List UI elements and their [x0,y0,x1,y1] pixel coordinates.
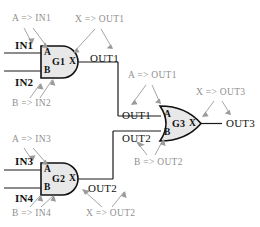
annotation-label-a-out1: A => OUT1 [128,71,177,81]
annotation-arrow-b-in4 [30,195,56,207]
annotation-arrow-a-out1 [131,85,161,105]
annotation-label-x-out2: X => OUT2 [86,209,135,219]
gate-g2-name-label: G2 [52,174,65,184]
annotation-label-x-out1: X => OUT1 [75,15,124,25]
gate-g3-pin-b-label: B [164,128,171,138]
annotation-label-a-in1: A => IN1 [12,14,51,24]
annotation-arrow-x-out1 [73,29,113,53]
signal-label-in2: IN2 [15,77,33,88]
gate-g1-name-label: G1 [52,57,65,67]
signal-label-in4: IN4 [15,193,33,204]
gate-g1-pin-b-label: B [44,66,51,76]
signal-label-in3: IN3 [15,156,33,167]
signal-label-out1-top: OUT1 [90,53,119,64]
annotation-label-x-out3: X => OUT3 [196,88,245,98]
gate-g3-name-label: G3 [172,119,185,129]
annotation-label-b-in4: B => IN4 [12,209,51,219]
logic-gate-diagram: A => IN1 X => OUT1 B => IN2 A => OUT1 X … [0,0,260,227]
annotation-arrow-x-out3 [202,101,231,117]
gate-g2-pin-b-label: B [44,183,51,193]
gate-g2-pin-a-label: A [44,165,51,175]
signal-label-out2-bottom: OUT2 [88,183,117,194]
gate-g3-pin-a-label: A [164,110,171,120]
gate-g2-pin-x-label: X [69,174,76,184]
annotation-label-b-out2: B => OUT2 [134,158,183,168]
annotation-label-a-in3: A => IN3 [12,135,51,145]
gate-g1-pin-a-label: A [44,48,51,58]
annotation-label-b-in2: B => IN2 [12,99,51,109]
signal-label-in1: IN1 [15,40,33,51]
gate-g1-pin-x-label: X [69,57,76,67]
annotation-arrow-b-in2 [30,79,55,98]
signal-label-out3: OUT3 [226,118,255,129]
signal-label-out2-mid: OUT2 [122,133,151,144]
signal-label-out1-mid: OUT1 [122,110,151,121]
gate-g3-pin-x-label: X [189,119,196,129]
